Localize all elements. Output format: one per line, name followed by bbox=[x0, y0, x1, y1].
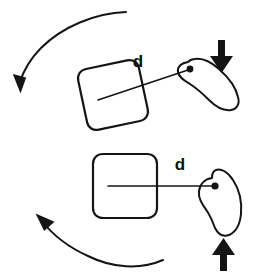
down-arrow bbox=[210, 40, 233, 73]
distance-label-bottom: d bbox=[175, 155, 185, 174]
diagram-svg: d d bbox=[0, 0, 261, 277]
irregular-blob-tilted bbox=[178, 59, 239, 110]
attach-dot-bottom bbox=[211, 182, 218, 189]
bottom-panel: d bbox=[36, 154, 242, 271]
clockwise-arc-arrow bbox=[36, 214, 164, 267]
irregular-blob-comma bbox=[199, 169, 241, 235]
distance-label-top: d bbox=[133, 52, 143, 71]
counterclockwise-arc-arrow bbox=[13, 12, 126, 94]
up-arrow bbox=[212, 238, 235, 271]
attach-dot-top bbox=[187, 66, 194, 73]
top-panel: d bbox=[13, 12, 239, 132]
diagram-canvas: d d bbox=[0, 0, 261, 277]
